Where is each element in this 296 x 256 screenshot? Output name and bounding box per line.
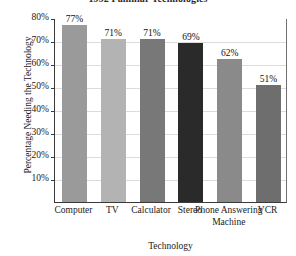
y-axis-tick-label: 50% (32, 81, 49, 91)
bar[interactable]: 77% (62, 25, 87, 202)
plot-area: 80%70%60%50%40%30%20%10%77%71%71%69%62%5… (54, 19, 287, 203)
y-axis-tick-mark (51, 180, 55, 181)
x-axis-category-label: VCR (232, 205, 296, 217)
y-axis-tick-mark (51, 42, 55, 43)
bar-value-label: 77% (66, 14, 83, 24)
y-axis-tick-mark (51, 134, 55, 135)
gridline (55, 134, 286, 135)
y-axis-tick-label: 80% (32, 12, 49, 22)
bar-value-label: 69% (182, 32, 199, 42)
y-axis-tick-mark (51, 157, 55, 158)
bar[interactable]: 71% (101, 39, 126, 202)
y-axis-tick-label: 60% (32, 58, 49, 68)
bar[interactable]: 69% (178, 43, 203, 202)
y-axis-tick-label: 40% (32, 104, 49, 114)
y-axis-tick-label: 70% (32, 35, 49, 45)
y-axis-tick-mark (51, 88, 55, 89)
bar[interactable]: 51% (256, 85, 281, 202)
bar-value-label: 51% (260, 74, 277, 84)
y-axis-tick-mark (51, 65, 55, 66)
gridline (55, 42, 286, 43)
y-axis-tick-mark (51, 19, 55, 20)
gridline (55, 88, 286, 89)
x-axis-title: Technology (54, 241, 287, 251)
bar-value-label: 71% (143, 28, 160, 38)
bar[interactable]: 71% (140, 39, 165, 202)
y-axis-tick-label: 20% (32, 150, 49, 160)
y-axis-tick-label: 30% (32, 127, 49, 137)
y-axis-tick-label: 10% (32, 173, 49, 183)
gridline (55, 111, 286, 112)
bar-value-label: 71% (105, 28, 122, 38)
gridline (55, 65, 286, 66)
bar-value-label: 62% (221, 48, 238, 58)
bar-chart: 1992 Familiar Technologies Percentage Ne… (0, 0, 296, 256)
y-axis-tick-mark (51, 111, 55, 112)
chart-title: 1992 Familiar Technologies (0, 0, 296, 4)
bar[interactable]: 62% (217, 59, 242, 202)
gridline (55, 157, 286, 158)
gridline (55, 180, 286, 181)
